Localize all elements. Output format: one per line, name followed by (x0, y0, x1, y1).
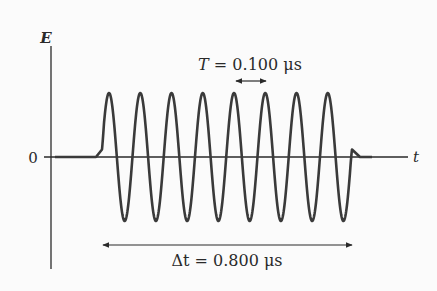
duration-value: 0.800 (213, 251, 259, 270)
duration-equals: = (189, 251, 213, 270)
x-axis-label: t (413, 148, 420, 166)
duration-label: Δt = 0.800 μs (171, 251, 282, 270)
duration-unit: μs (259, 251, 283, 270)
wave-pulse-diagram: E t 0 T = 0.100 μs Δt = 0.800 μs (0, 0, 437, 291)
period-label: T = 0.100 μs (198, 55, 302, 74)
y-axis-label: E (39, 29, 52, 47)
duration-symbol: Δt (171, 251, 190, 270)
period-value: 0.100 (232, 55, 278, 74)
origin-label: 0 (28, 149, 38, 167)
period-equals: = (209, 55, 233, 74)
period-unit: μs (278, 55, 302, 74)
